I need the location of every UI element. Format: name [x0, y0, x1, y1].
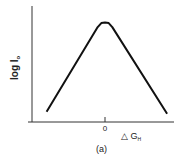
x-axis-label-main: △ G	[121, 131, 138, 141]
x-axis-label-sub: H	[138, 136, 142, 142]
chart: 0 log Io △ GH (a)	[0, 0, 182, 157]
series-line-curve	[47, 23, 168, 114]
y-axis-label-main: log I	[9, 59, 20, 80]
y-axis-label-sub: o	[15, 55, 21, 59]
panel-label: (a)	[96, 144, 107, 154]
x-tick-label: 0	[103, 124, 108, 133]
x-axis-label: △ GH	[121, 131, 142, 142]
y-axis-label: log Io	[9, 55, 21, 80]
